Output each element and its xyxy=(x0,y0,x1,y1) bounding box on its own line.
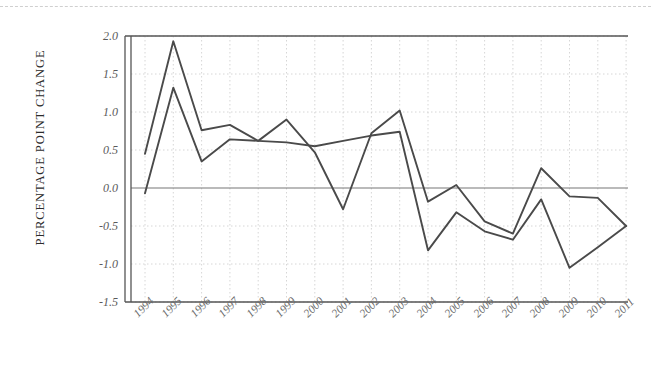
x-tick-label: 1999 xyxy=(273,295,298,320)
x-tick-label: 1995 xyxy=(159,295,184,320)
x-tick-label: 2002 xyxy=(357,295,382,320)
x-tick-label: 1996 xyxy=(188,295,213,320)
x-tick-label: 2008 xyxy=(527,295,552,320)
x-axis-tick-labels: 1994199519961997199819992000200120022003… xyxy=(0,0,651,367)
x-tick-label: 1998 xyxy=(244,295,269,320)
x-tick-label: 2006 xyxy=(471,295,496,320)
x-tick-label: 2000 xyxy=(301,295,326,320)
x-tick-label: 2009 xyxy=(556,295,581,320)
x-tick-label: 2003 xyxy=(386,295,411,320)
x-tick-label: 1994 xyxy=(131,295,156,320)
x-tick-label: 1997 xyxy=(216,295,241,320)
x-tick-label: 2005 xyxy=(442,295,467,320)
x-tick-label: 2010 xyxy=(584,295,609,320)
x-tick-label: 2011 xyxy=(612,295,636,319)
chart-figure: PERCENTAGE POINT CHANGE 2.01.51.00.50.0-… xyxy=(0,0,651,367)
x-tick-label: 2007 xyxy=(499,295,524,320)
x-tick-label: 2004 xyxy=(414,295,439,320)
x-tick-label: 2001 xyxy=(329,295,354,320)
